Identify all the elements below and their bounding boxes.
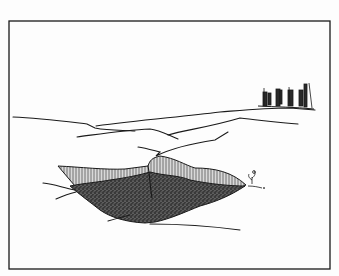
ink-drawing xyxy=(0,0,339,276)
illustration-canvas xyxy=(0,0,339,276)
horizon-ridge-lines xyxy=(13,108,315,156)
frame-border xyxy=(9,21,330,269)
distant-figures-group xyxy=(258,83,314,109)
small-plant xyxy=(248,171,265,189)
